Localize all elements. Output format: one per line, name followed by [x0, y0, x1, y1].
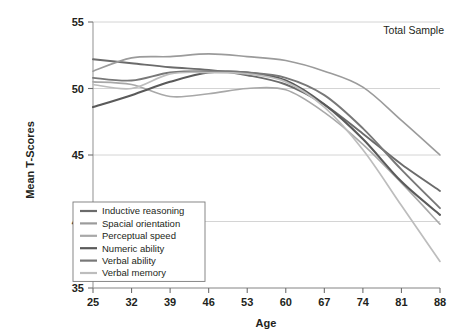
line-chart: 3540455055 25323946536067748188 Mean T-S… [0, 0, 475, 335]
y-tick-label: 35 [72, 282, 84, 294]
y-axis-title: Mean T-Scores [24, 121, 36, 199]
x-axis-title: Age [256, 317, 277, 329]
x-tick-label: 32 [125, 296, 137, 308]
x-tick-label: 81 [395, 296, 407, 308]
x-tick-label: 46 [203, 296, 215, 308]
series-line-numeric-ability [93, 71, 440, 214]
y-tick-label: 50 [72, 83, 84, 95]
x-tick-label: 53 [241, 296, 253, 308]
x-tick-label: 39 [164, 296, 176, 308]
chart-figure: 3540455055 25323946536067748188 Mean T-S… [0, 0, 475, 335]
y-tick-label: 55 [72, 16, 84, 28]
y-tick-label: 45 [72, 149, 84, 161]
x-axis-tick-labels: 25323946536067748188 [87, 296, 446, 308]
x-tick-label: 60 [280, 296, 292, 308]
legend-label: Perceptual speed [102, 230, 176, 241]
legend-label: Spacial orientation [102, 218, 180, 229]
x-tick-label: 67 [318, 296, 330, 308]
legend-label: Verbal ability [102, 255, 156, 266]
x-tick-label: 25 [87, 296, 99, 308]
x-tick-label: 74 [357, 296, 370, 308]
legend-label: Inductive reasoning [102, 205, 184, 216]
x-tick-label: 88 [434, 296, 446, 308]
chart-legend: Inductive reasoningSpacial orientationPe… [73, 202, 205, 281]
total-sample-annotation: Total Sample [383, 24, 444, 36]
legend-label: Numeric ability [102, 243, 165, 254]
series-line-spacial-orientation [93, 54, 440, 155]
series-line-verbal-ability [93, 71, 440, 208]
legend-label: Verbal memory [102, 267, 166, 278]
